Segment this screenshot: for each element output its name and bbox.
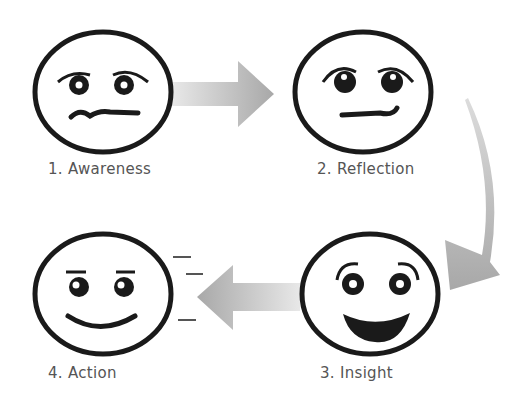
step-label-insight: 3. Insight <box>320 364 393 382</box>
arrow-left-icon <box>197 265 300 330</box>
face-awareness-icon <box>35 32 171 152</box>
face-action-icon <box>35 234 171 354</box>
face-insight-icon <box>302 234 438 354</box>
motion-lines-icon <box>173 257 203 320</box>
face-reflection-icon <box>295 32 431 152</box>
arrow-right-icon <box>172 61 274 127</box>
cycle-diagram <box>0 0 527 395</box>
curved-arrow-down-icon <box>445 98 500 290</box>
step-label-action: 4. Action <box>48 364 117 382</box>
step-label-reflection: 2. Reflection <box>317 160 415 178</box>
step-label-awareness: 1. Awareness <box>48 160 151 178</box>
